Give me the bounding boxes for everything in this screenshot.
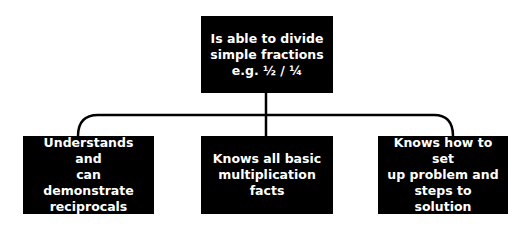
- root-node: Is able to divide simple fractions e.g. …: [201, 16, 333, 93]
- child-node-label: Knows how to set up problem and steps to…: [384, 135, 502, 215]
- child-node-label: Understands and can demonstrate reciproc…: [29, 135, 148, 215]
- child-node-label: Knows all basic multiplication facts: [207, 151, 327, 199]
- child-node-reciprocals: Understands and can demonstrate reciproc…: [23, 136, 154, 214]
- child-node-multiplication-facts: Knows all basic multiplication facts: [201, 136, 333, 214]
- root-node-label: Is able to divide simple fractions e.g. …: [210, 31, 323, 79]
- child-node-problem-setup: Knows how to set up problem and steps to…: [378, 136, 508, 214]
